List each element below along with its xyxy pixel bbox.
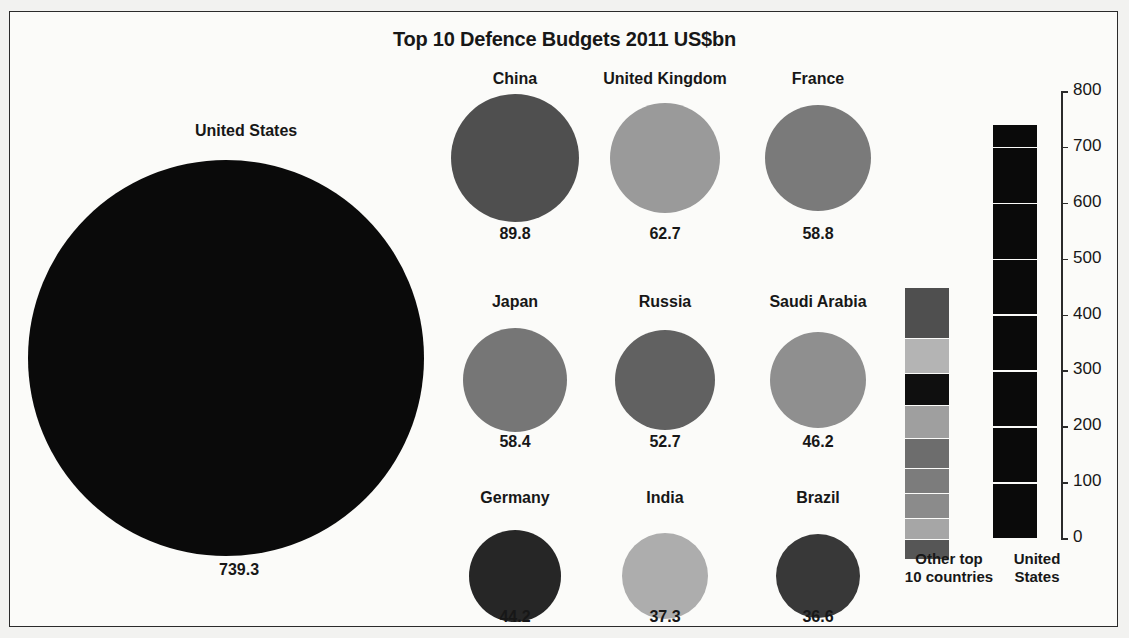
bubble-value-india: 37.3 <box>649 608 680 626</box>
y-axis-label-300: 300 <box>1073 359 1101 379</box>
y-axis-label-800: 800 <box>1073 80 1101 100</box>
bubble-label-france: France <box>792 70 844 88</box>
bar-caption-united-states: UnitedStates <box>977 550 1097 587</box>
bubble-value-germany: 44.2 <box>499 608 530 626</box>
bar-united-states <box>993 125 1037 538</box>
y-axis-tick <box>1061 538 1068 540</box>
stack-segment-india <box>905 519 949 540</box>
stack-segment-france <box>905 374 949 407</box>
gridline <box>993 259 1037 261</box>
page-title: Top 10 Defence Budgets 2011 US$bn <box>10 28 1119 51</box>
y-axis-label-0: 0 <box>1073 527 1082 547</box>
y-axis-tick <box>1061 315 1068 317</box>
gridline <box>993 147 1037 149</box>
stack-segment-japan <box>905 406 949 439</box>
bubble-circle-india <box>622 533 708 619</box>
bubble-value-russia: 52.7 <box>649 433 680 451</box>
bubble-label-united-kingdom: United Kingdom <box>603 70 727 88</box>
y-axis-tick <box>1061 426 1068 428</box>
bubble-value-japan: 58.4 <box>499 433 530 451</box>
bubble-circle-japan <box>463 328 567 432</box>
bubble-label-brazil: Brazil <box>796 489 840 507</box>
gridline <box>993 426 1037 428</box>
bubble-value-united-states: 739.3 <box>219 561 259 579</box>
y-axis-tick <box>1061 370 1068 372</box>
y-axis-label-400: 400 <box>1073 304 1101 324</box>
bubble-label-india: India <box>646 489 683 507</box>
bar-caption-united-states-line2: States <box>977 568 1097 586</box>
bubble-circle-united-kingdom <box>610 103 720 213</box>
gridline <box>993 370 1037 372</box>
y-axis-label-700: 700 <box>1073 136 1101 156</box>
bubble-circle-china <box>451 94 579 222</box>
infographic-root: Top 10 Defence Budgets 2011 US$bn United… <box>0 0 1129 638</box>
bubble-circle-brazil <box>776 534 860 618</box>
stacked-bar-other-top-10-countries <box>905 288 949 538</box>
bubble-label-china: China <box>493 70 537 88</box>
gridline <box>993 482 1037 484</box>
y-axis-tick <box>1061 203 1068 205</box>
chart-frame: Top 10 Defence Budgets 2011 US$bn United… <box>9 11 1118 627</box>
bubble-label-russia: Russia <box>639 293 691 311</box>
y-axis-label-200: 200 <box>1073 415 1101 435</box>
bubble-value-united-kingdom: 62.7 <box>649 225 680 243</box>
y-axis-label-500: 500 <box>1073 248 1101 268</box>
stack-segment-russia <box>905 439 949 468</box>
bubble-circle-united-states <box>28 160 424 556</box>
stack-segment-united-kingdom <box>905 339 949 374</box>
bubble-circle-saudi-arabia <box>770 332 866 428</box>
bubble-value-france: 58.8 <box>802 225 833 243</box>
stack-segment-germany <box>905 494 949 519</box>
bubble-label-japan: Japan <box>492 293 538 311</box>
bubble-value-brazil: 36.6 <box>802 608 833 626</box>
y-axis-tick <box>1061 259 1068 261</box>
stack-segment-china <box>905 288 949 338</box>
bubble-label-united-states: United States <box>195 122 297 140</box>
bubble-value-saudi-arabia: 46.2 <box>802 433 833 451</box>
bubble-value-china: 89.8 <box>499 225 530 243</box>
gridline <box>993 203 1037 205</box>
y-axis-label-100: 100 <box>1073 471 1101 491</box>
y-axis-tick <box>1061 482 1068 484</box>
y-axis-tick <box>1061 147 1068 149</box>
y-axis-tick <box>1061 91 1068 93</box>
bubble-circle-russia <box>615 330 715 430</box>
bar-caption-united-states-line1: United <box>977 550 1097 568</box>
gridline <box>993 314 1037 316</box>
bubble-label-saudi-arabia: Saudi Arabia <box>769 293 866 311</box>
bubble-circle-france <box>765 105 871 211</box>
bubble-label-germany: Germany <box>480 489 549 507</box>
y-axis-label-600: 600 <box>1073 192 1101 212</box>
stack-segment-saudi-arabia <box>905 469 949 495</box>
